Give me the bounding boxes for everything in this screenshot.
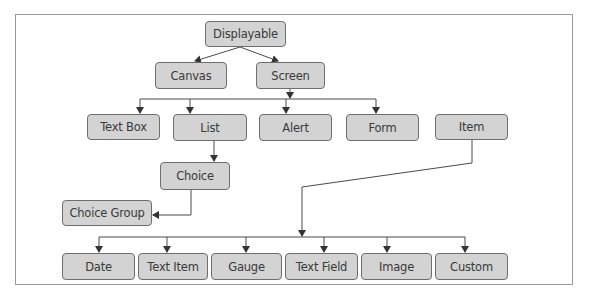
- node-form: Form: [346, 114, 419, 141]
- node-choice: Choice: [160, 162, 230, 190]
- node-date: Date: [62, 253, 135, 280]
- node-text-item: Text Item: [138, 253, 208, 280]
- node-alert: Alert: [259, 114, 332, 141]
- node-canvas: Canvas: [155, 62, 227, 89]
- node-item: Item: [435, 114, 508, 140]
- node-text-field: Text Field: [285, 253, 358, 280]
- node-custom: Custom: [435, 253, 508, 280]
- node-displayable: Displayable: [205, 21, 286, 47]
- node-choice-group: Choice Group: [62, 200, 152, 226]
- node-list: List: [173, 114, 247, 141]
- node-gauge: Gauge: [211, 253, 282, 280]
- node-screen: Screen: [256, 62, 325, 89]
- node-text-box: Text Box: [87, 114, 160, 140]
- node-image: Image: [361, 253, 432, 280]
